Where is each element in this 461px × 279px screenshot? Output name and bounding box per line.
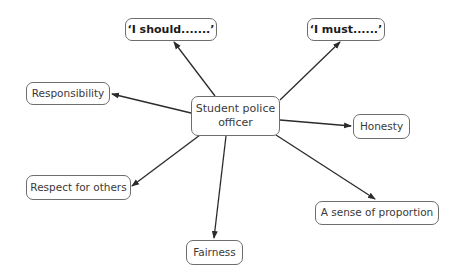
arrow-to-respect bbox=[132, 135, 200, 186]
node-center-student-police-officer: Student police officer bbox=[191, 96, 280, 136]
arrow-to-should bbox=[174, 42, 215, 96]
arrow-to-honesty bbox=[280, 120, 351, 126]
arrow-to-must bbox=[280, 42, 340, 100]
node-respect-for-others: Respect for others bbox=[26, 175, 131, 200]
node-fairness: Fairness bbox=[186, 240, 243, 265]
node-sense-of-proportion: A sense of proportion bbox=[315, 201, 439, 225]
node-responsibility: Responsibility bbox=[26, 82, 110, 105]
node-honesty: Honesty bbox=[353, 114, 410, 139]
connector-lines bbox=[0, 0, 461, 279]
node-i-should: ‘I should.......’ bbox=[125, 18, 217, 41]
arrow-to-proportion bbox=[276, 135, 375, 199]
node-i-must: ‘I must......’ bbox=[307, 18, 385, 41]
arrow-to-fairness bbox=[214, 136, 226, 238]
arrow-to-responsibility bbox=[112, 94, 191, 113]
